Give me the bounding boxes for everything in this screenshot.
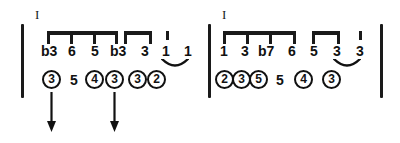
roman-numeral-label: I bbox=[35, 8, 39, 21]
circled-fingering-number: 5 bbox=[249, 70, 268, 89]
stem-tick bbox=[166, 31, 169, 40]
circled-fingering-number: 3 bbox=[128, 70, 147, 89]
scale-degree-label: 5 bbox=[91, 44, 99, 58]
stem-tick bbox=[359, 31, 362, 40]
notation-figure: IIb365b331135433213b76533235543 bbox=[0, 0, 400, 143]
down-arrow bbox=[45, 92, 58, 132]
circled-fingering-number: 3 bbox=[42, 70, 61, 89]
beam-tick bbox=[149, 35, 152, 44]
scale-degree-label: b3 bbox=[110, 44, 126, 58]
barline-closing bbox=[380, 24, 383, 98]
roman-numeral-label: I bbox=[222, 8, 226, 21]
fingering-number: 5 bbox=[276, 73, 284, 87]
scale-degree-label: b7 bbox=[258, 44, 274, 58]
scale-degree-label: 6 bbox=[68, 44, 76, 58]
circled-fingering-number: 4 bbox=[294, 70, 313, 89]
scale-degree-label: b3 bbox=[41, 44, 57, 58]
barline-opening bbox=[21, 24, 24, 98]
scale-degree-label: 5 bbox=[310, 44, 318, 58]
beam-bracket bbox=[223, 31, 296, 35]
tie-curve bbox=[161, 55, 189, 65]
scale-degree-label: 6 bbox=[288, 44, 296, 58]
circled-fingering-number: 3 bbox=[105, 70, 124, 89]
scale-degree-label: 3 bbox=[241, 44, 249, 58]
beam-bracket bbox=[47, 31, 118, 35]
scale-degree-label: 1 bbox=[220, 44, 228, 58]
tie-curve bbox=[333, 55, 361, 65]
beam-bracket bbox=[124, 31, 152, 35]
beam-bracket bbox=[312, 31, 340, 35]
circled-fingering-number: 4 bbox=[85, 70, 104, 89]
circled-fingering-number: 2 bbox=[147, 70, 166, 89]
scale-degree-label: 3 bbox=[141, 44, 149, 58]
circled-fingering-number: 3 bbox=[322, 70, 341, 89]
barline-opening bbox=[208, 24, 211, 98]
fingering-number: 5 bbox=[70, 73, 78, 87]
down-arrow bbox=[108, 92, 121, 132]
